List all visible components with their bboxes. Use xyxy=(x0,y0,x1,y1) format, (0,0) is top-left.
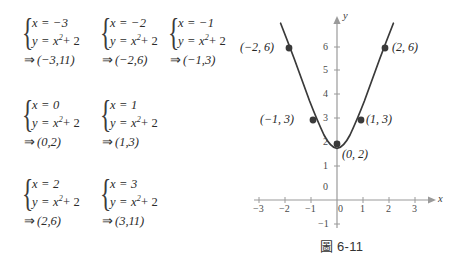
equation-lines: x = 3 y = x2+ 2 xyxy=(110,175,158,211)
left-brace: { xyxy=(22,96,28,132)
system-braced-rows: { x = 0 y = x2+ 2 xyxy=(22,96,80,132)
system-result: ⇒(−3,11) xyxy=(22,52,80,68)
system-block: { x = 1 y = x2+ 2 ⇒(1,3) xyxy=(100,96,158,150)
equation-lines: x = −3 y = x2+ 2 xyxy=(32,14,80,50)
equation-lines: x = −2 y = x2+ 2 xyxy=(110,14,158,50)
equation-x: x = −2 xyxy=(110,14,158,32)
left-brace: { xyxy=(100,96,106,132)
coordinate-plane: y x −3 −2 −1 0 1 2 3 6 5 4 3 2 1 0 −1 (−… xyxy=(232,0,451,265)
equation-systems-panel: { x = −3 y = x2+ 2 ⇒(−3,11) { x = −2 y =… xyxy=(0,0,232,265)
figure-page: { x = −3 y = x2+ 2 ⇒(−3,11) { x = −2 y =… xyxy=(0,0,451,265)
x-axis-arrow xyxy=(428,196,436,203)
system-block: { x = 0 y = x2+ 2 ⇒(0,2) xyxy=(22,96,80,150)
x-tick-label: 3 xyxy=(412,203,417,214)
system-result: ⇒(3,11) xyxy=(100,213,158,229)
data-point xyxy=(334,141,341,148)
system-braced-rows: { x = −3 y = x2+ 2 xyxy=(22,14,80,50)
x-tick-label: 2 xyxy=(386,203,391,214)
left-brace: { xyxy=(168,14,174,50)
equation-y: y = x2+ 2 xyxy=(32,32,80,50)
y-tick-label: 6 xyxy=(323,41,328,52)
y-tick-label: 2 xyxy=(323,136,328,147)
equation-y: y = x2+ 2 xyxy=(178,32,226,50)
system-result: ⇒(−2,6) xyxy=(100,52,158,68)
data-point xyxy=(286,45,293,52)
y-tick-label: 1 xyxy=(323,160,328,171)
data-point xyxy=(310,117,317,124)
point-label: (−2, 6) xyxy=(240,40,274,55)
y-tick-label: 0 xyxy=(323,181,328,192)
system-block: { x = 2 y = x2+ 2 ⇒(2,6) xyxy=(22,175,80,229)
equation-y: y = x2+ 2 xyxy=(110,32,158,50)
left-brace: { xyxy=(22,14,28,50)
system-braced-rows: { x = 3 y = x2+ 2 xyxy=(100,175,158,211)
x-tick-label: 1 xyxy=(360,203,365,214)
equation-y: y = x2+ 2 xyxy=(32,193,80,211)
figure-caption: 圖 6-11 xyxy=(232,236,451,255)
system-block: { x = −3 y = x2+ 2 ⇒(−3,11) xyxy=(22,14,80,68)
x-tick-label: −1 xyxy=(305,203,316,214)
x-tick-label: −3 xyxy=(253,203,264,214)
system-result: ⇒(1,3) xyxy=(100,134,158,150)
system-braced-rows: { x = −1 y = x2+ 2 xyxy=(168,14,226,50)
x-tick-label: 0 xyxy=(338,203,343,214)
equation-x: x = 0 xyxy=(32,96,80,114)
left-brace: { xyxy=(100,14,106,50)
point-label: (−1, 3) xyxy=(260,112,294,127)
equation-lines: x = −1 y = x2+ 2 xyxy=(178,14,226,50)
y-tick-label: 3 xyxy=(323,112,328,123)
y-tick-label: 4 xyxy=(323,88,328,99)
equation-lines: x = 1 y = x2+ 2 xyxy=(110,96,158,132)
y-axis-arrow xyxy=(333,16,340,24)
system-result: ⇒(0,2) xyxy=(22,134,80,150)
system-braced-rows: { x = 2 y = x2+ 2 xyxy=(22,175,80,211)
system-result: ⇒(2,6) xyxy=(22,213,80,229)
x-tick-label: −2 xyxy=(279,203,290,214)
equation-x: x = 3 xyxy=(110,175,158,193)
left-brace: { xyxy=(100,175,106,211)
equation-lines: x = 2 y = x2+ 2 xyxy=(32,175,80,211)
y-tick-label: 5 xyxy=(323,64,328,75)
equation-y: y = x2+ 2 xyxy=(110,114,158,132)
data-point xyxy=(358,117,365,124)
point-label: (0, 2) xyxy=(342,147,368,162)
equation-x: x = −3 xyxy=(32,14,80,32)
equation-y: y = x2+ 2 xyxy=(32,114,80,132)
data-point xyxy=(382,45,389,52)
system-braced-rows: { x = 1 y = x2+ 2 xyxy=(100,96,158,132)
equation-x: x = −1 xyxy=(178,14,226,32)
equation-x: x = 1 xyxy=(110,96,158,114)
system-braced-rows: { x = −2 y = x2+ 2 xyxy=(100,14,158,50)
equation-y: y = x2+ 2 xyxy=(110,193,158,211)
equation-lines: x = 0 y = x2+ 2 xyxy=(32,96,80,132)
y-axis-label: y xyxy=(343,10,348,21)
left-brace: { xyxy=(22,175,28,211)
equation-x: x = 2 xyxy=(32,175,80,193)
system-block: { x = 3 y = x2+ 2 ⇒(3,11) xyxy=(100,175,158,229)
point-label: (1, 3) xyxy=(366,112,392,127)
system-block: { x = −1 y = x2+ 2 ⇒(−1,3) xyxy=(168,14,226,68)
x-axis-label: x xyxy=(438,193,443,204)
y-tick-label: −1 xyxy=(318,218,329,229)
system-block: { x = −2 y = x2+ 2 ⇒(−2,6) xyxy=(100,14,158,68)
system-result: ⇒(−1,3) xyxy=(168,52,226,68)
point-label: (2, 6) xyxy=(392,40,418,55)
